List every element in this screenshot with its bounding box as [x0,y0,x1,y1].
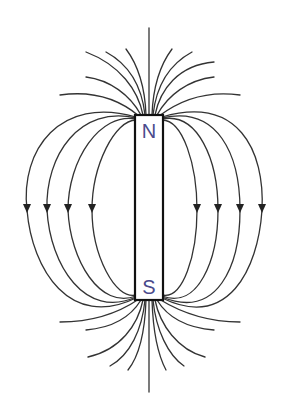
arrow-down-icon [23,204,31,213]
arrow-down-icon [88,204,96,213]
arrow-down-icon [214,204,222,213]
north-pole-label: N [142,120,156,142]
arrow-down-icon [236,204,244,213]
arrow-down-icon [64,204,72,213]
magnet-body [135,115,163,300]
bar-magnet: N S [135,115,163,300]
south-pole-label: S [142,276,155,298]
arrow-down-icon [193,204,201,213]
magnetic-field-diagram: N S [0,0,290,410]
top-fan-lines [60,49,240,116]
right-field-loops [162,112,262,307]
arrow-down-icon [258,204,266,213]
left-field-loops [26,112,136,307]
bottom-fan-lines [60,299,240,370]
arrow-down-icon [43,204,51,213]
